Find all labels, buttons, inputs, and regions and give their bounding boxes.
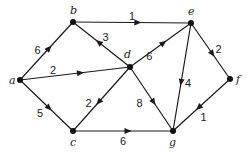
node-d: d <box>124 48 133 70</box>
edge-d-c: 2 <box>73 67 130 131</box>
node-a: a <box>9 74 23 87</box>
edge-weight-label: 2 <box>86 97 92 109</box>
edge-line <box>20 22 73 80</box>
edge-weight-label: 6 <box>146 50 152 62</box>
edge-d-b: 3 <box>73 22 130 67</box>
vertex-dot <box>70 19 76 25</box>
arrowhead-icon <box>179 78 185 85</box>
edge-d-e: 6 <box>130 23 191 67</box>
vertex-dot <box>227 76 233 82</box>
edge-a-b: 6 <box>20 22 73 80</box>
edge-weight-label: 2 <box>50 64 56 76</box>
node-g: g <box>169 128 176 149</box>
edge-line <box>20 67 130 80</box>
vertex-label: b <box>70 4 77 17</box>
weighted-digraph: 625136284216 abcdefg <box>0 0 247 153</box>
edge-f-g: 1 <box>173 79 230 131</box>
edge-weight-label: 6 <box>120 135 126 147</box>
edge-d-g: 8 <box>130 67 173 131</box>
vertex-label: e <box>188 5 195 18</box>
arrowhead-icon <box>77 70 84 76</box>
edge-weight-label: 6 <box>34 44 40 56</box>
edge-line <box>73 67 130 131</box>
vertex-dot <box>170 128 176 134</box>
node-b: b <box>70 4 77 25</box>
nodes: abcdefg <box>9 4 242 149</box>
edge-line <box>130 23 191 67</box>
vertex-dot <box>17 77 23 83</box>
edge-weight-label: 2 <box>215 43 221 55</box>
vertex-label: d <box>124 48 131 61</box>
edge-line <box>73 22 130 67</box>
edge-weight-label: 5 <box>37 107 43 119</box>
edge-a-c: 5 <box>20 80 73 131</box>
edge-weight-label: 8 <box>137 97 143 109</box>
node-f: f <box>227 73 242 86</box>
arrowhead-icon <box>134 20 141 26</box>
edge-e-f: 2 <box>191 23 230 79</box>
vertex-dot <box>70 128 76 134</box>
edge-weight-label: 1 <box>129 10 135 22</box>
node-e: e <box>188 5 195 26</box>
vertex-dot <box>188 20 194 26</box>
vertex-dot <box>127 64 133 70</box>
edge-e-g: 4 <box>173 23 191 131</box>
edge-line <box>20 80 73 131</box>
arrowhead-icon <box>208 49 214 56</box>
node-c: c <box>70 128 76 149</box>
edge-a-d: 2 <box>20 64 130 80</box>
vertex-label: c <box>70 136 76 149</box>
edge-weight-label: 1 <box>201 111 207 123</box>
edge-weight-label: 4 <box>185 77 191 89</box>
vertex-label: f <box>235 73 242 86</box>
edge-line <box>173 79 230 131</box>
edge-c-g: 6 <box>73 128 173 147</box>
edge-weight-label: 3 <box>103 31 109 43</box>
arrowhead-icon <box>149 98 155 105</box>
arrowhead-icon <box>125 128 132 134</box>
edge-b-e: 1 <box>73 10 191 25</box>
vertex-label: g <box>169 136 176 149</box>
edges: 625136284216 <box>20 10 230 147</box>
arrowhead-icon <box>159 41 166 48</box>
vertex-label: a <box>9 74 16 87</box>
